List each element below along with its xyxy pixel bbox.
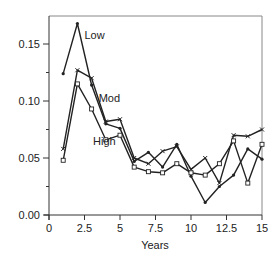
series-label-low: Low	[85, 29, 105, 41]
x-tick-label: 0	[46, 222, 52, 234]
frame-border	[49, 16, 262, 215]
data-point-square	[189, 171, 193, 175]
plot-frame	[49, 16, 262, 215]
data-point-dot	[90, 83, 93, 86]
series-label-mod: Mod	[99, 92, 120, 104]
data-point-square	[203, 173, 207, 177]
data-point-square	[175, 162, 179, 166]
line-chart: 02.557.51012.5150.000.050.100.15 LowModH…	[0, 0, 279, 264]
data-point-dot	[218, 185, 221, 188]
data-point-dot	[62, 72, 65, 75]
x-axis-title: Years	[141, 239, 169, 251]
data-point-square	[61, 158, 65, 162]
data-point-dot	[204, 201, 207, 204]
axes: 02.557.51012.5150.000.050.100.15	[19, 16, 269, 234]
x-tick-label: 7.5	[148, 222, 163, 234]
series-labels: LowModHigh	[85, 29, 121, 147]
data-point-square	[161, 171, 165, 175]
x-tick-label: 15	[256, 222, 268, 234]
data-point-dot	[246, 147, 249, 150]
x-tick-label: 10	[185, 222, 197, 234]
data-point-dot	[232, 174, 235, 177]
x-tick-label: 5	[117, 222, 123, 234]
data-point-dot	[118, 127, 121, 130]
data-point-dot	[260, 158, 263, 161]
data-point-square	[217, 162, 221, 166]
data-point-dot	[147, 151, 150, 154]
series-high	[61, 82, 264, 185]
data-point-square	[90, 107, 94, 111]
data-point-square	[232, 139, 236, 143]
data-point-square	[146, 170, 150, 174]
data-point-square	[132, 165, 136, 169]
data-point-square	[118, 133, 122, 137]
data-point-dot	[161, 166, 164, 169]
series-low	[62, 22, 264, 204]
data-point-square	[260, 142, 264, 146]
y-tick-label: 0.00	[19, 209, 40, 221]
x-tick-label: 2.5	[77, 222, 92, 234]
y-tick-label: 0.15	[19, 38, 40, 50]
data-point-square	[246, 181, 250, 185]
data-point-square	[75, 82, 79, 86]
y-tick-label: 0.05	[19, 152, 40, 164]
x-tick-label: 12.5	[216, 222, 237, 234]
series-group	[61, 22, 264, 204]
series-label-high: High	[93, 135, 116, 147]
data-point-dot	[133, 160, 136, 163]
y-tick-label: 0.10	[19, 95, 40, 107]
data-point-dot	[76, 22, 79, 25]
